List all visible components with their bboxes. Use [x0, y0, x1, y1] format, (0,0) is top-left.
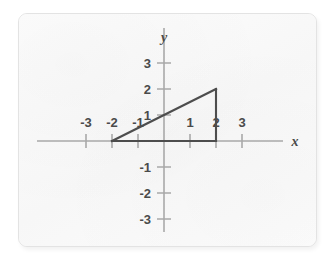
x-axis-label: x — [291, 134, 299, 149]
x-tick-label-3: 3 — [238, 115, 245, 130]
y-tick-label--1: -1 — [139, 160, 151, 175]
y-tick-label--2: -2 — [139, 186, 151, 201]
y-tick-label-2: 2 — [144, 82, 151, 97]
y-tick-label-1: 1 — [144, 108, 151, 123]
x-tick-label--3: -3 — [80, 115, 92, 130]
y-tick-label--3: -3 — [139, 212, 151, 227]
y-axis-label: y — [159, 30, 168, 45]
x-tick-label-1: 1 — [186, 115, 193, 130]
graph-card: -3 -2 -1 1 2 3 3 2 1 -1 -2 -3 x y — [18, 13, 317, 247]
y-tick-label-3: 3 — [144, 56, 151, 71]
x-tick-label--2: -2 — [106, 115, 118, 130]
axes-group — [37, 28, 283, 232]
coordinate-plane: -3 -2 -1 1 2 3 3 2 1 -1 -2 -3 x y — [19, 14, 316, 246]
x-tick-labels: -3 -2 -1 1 2 3 — [80, 115, 245, 130]
